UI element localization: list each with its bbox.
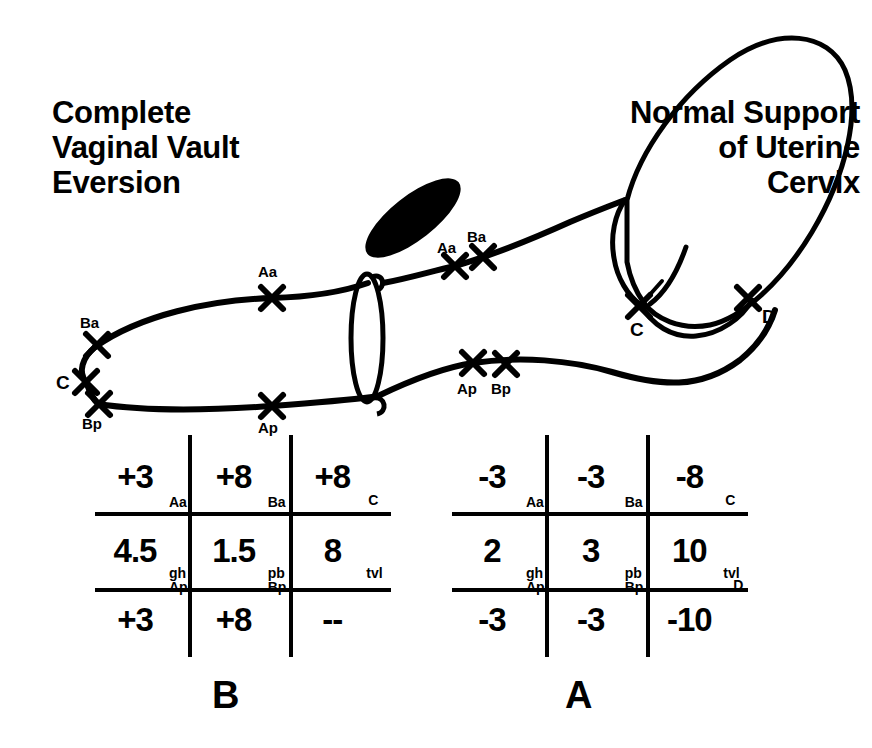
grid-a-sub-ba: Ba	[625, 495, 643, 509]
grid-a-value-c: -8	[655, 459, 723, 492]
grid-a-sub-gh: gh	[526, 566, 543, 580]
grid-a-cell-d: -10 D	[649, 586, 748, 658]
grid-b-sub-ba: Ba	[268, 495, 286, 509]
point-label-ba-normal: Ba	[467, 229, 486, 244]
panel-letter-b: B	[212, 676, 239, 714]
point-label-bp-prolapsed: Bp	[82, 416, 102, 431]
grid-a-cell-bp: -3 Bp	[551, 586, 650, 658]
grid-b-cell-gh: 4.5 gh	[95, 515, 194, 587]
grid-b-value-d: --	[298, 603, 366, 636]
grid-a-cell-ba: -3 Ba	[551, 443, 650, 515]
grid-a-value-ba: -3	[557, 459, 625, 492]
grid-a-value-tvl: 10	[655, 534, 723, 567]
popq-grid-b: +3 Aa +8 Ba +8 C 4.5 gh 1.5 pb 8 tvl	[95, 443, 391, 658]
point-marker-bp-normal	[495, 353, 517, 375]
grid-b-sub-pb: pb	[268, 566, 285, 580]
point-label-c-prolapsed: C	[56, 375, 70, 390]
grid-b-cell-ba: +8 Ba	[194, 443, 293, 515]
grid-b-value-tvl: 8	[298, 534, 366, 567]
grid-a-value-ap: -3	[458, 603, 526, 636]
grid-b-value-aa: +3	[101, 459, 169, 492]
grid-a-sub-c: C	[725, 493, 735, 507]
grid-b-value-pb: 1.5	[200, 534, 268, 567]
point-label-bp-normal: Bp	[491, 381, 511, 396]
grid-b-cell-d: --	[292, 586, 391, 658]
grid-b-value-ap: +3	[101, 603, 169, 636]
grid-b-value-ba: +8	[200, 459, 268, 492]
point-label-aa-normal: Aa	[437, 240, 456, 255]
grid-a-cell-ap: -3 Ap	[452, 586, 551, 658]
point-label-c-normal: C	[630, 322, 644, 337]
grid-a-value-pb: 3	[557, 534, 625, 567]
grid-a-value-bp: -3	[557, 603, 625, 636]
grid-b-cell-ap: +3 Ap	[95, 586, 194, 658]
grid-a-sub-aa: Aa	[526, 495, 544, 509]
grid-a-cell-pb: 3 pb	[551, 515, 650, 587]
grid-a-cell-aa: -3 Aa	[452, 443, 551, 515]
everted-vault-anterior-wall	[95, 283, 368, 347]
grid-a-sub-bp: Bp	[625, 580, 644, 594]
grid-b-value-c: +8	[298, 459, 366, 492]
grid-b-value-bp: +8	[200, 603, 268, 636]
point-marker-ba-prolapsed	[86, 334, 108, 356]
grid-a-cell-gh: 2 gh	[452, 515, 551, 587]
grid-a-cell-tvl: 10 tvl	[649, 515, 748, 587]
grid-a-value-d: -10	[655, 603, 723, 636]
popq-grid-a: -3 Aa -3 Ba -8 C 2 gh 3 pb 10 tvl	[452, 443, 748, 658]
grid-a-value-gh: 2	[458, 534, 526, 567]
point-label-ap-normal: Ap	[457, 381, 477, 396]
panel-letter-a: A	[565, 676, 592, 714]
grid-a-value-aa: -3	[458, 459, 526, 492]
grid-a-cell-c: -8 C	[649, 443, 748, 515]
grid-b-sub-bp: Bp	[268, 580, 287, 594]
grid-a-sub-d: D	[733, 578, 743, 592]
grid-b-sub-ap: Ap	[169, 580, 188, 594]
everted-vault-posterior-wall	[98, 397, 372, 410]
grid-a-sub-ap: Ap	[526, 580, 545, 594]
grid-b-cell-pb: 1.5 pb	[194, 515, 293, 587]
grid-b-cell-bp: +8 Bp	[194, 586, 293, 658]
popq-figure: Complete Vaginal Vault Eversion Normal S…	[0, 0, 872, 748]
point-label-ba-prolapsed: Ba	[80, 315, 99, 330]
grid-b-sub-gh: gh	[169, 566, 186, 580]
point-label-d-normal: D	[762, 309, 776, 324]
grid-b-sub-aa: Aa	[169, 495, 187, 509]
point-label-ap-prolapsed: Ap	[258, 420, 278, 435]
grid-b-cell-aa: +3 Aa	[95, 443, 194, 515]
grid-b-sub-c: C	[368, 493, 378, 507]
grid-a-sub-pb: pb	[625, 566, 642, 580]
grid-b-cell-tvl: 8 tvl	[292, 515, 391, 587]
point-label-aa-prolapsed: Aa	[258, 264, 277, 279]
grid-b-sub-tvl: tvl	[366, 566, 382, 580]
grid-b-value-gh: 4.5	[101, 534, 169, 567]
grid-b-cell-c: +8 C	[292, 443, 391, 515]
